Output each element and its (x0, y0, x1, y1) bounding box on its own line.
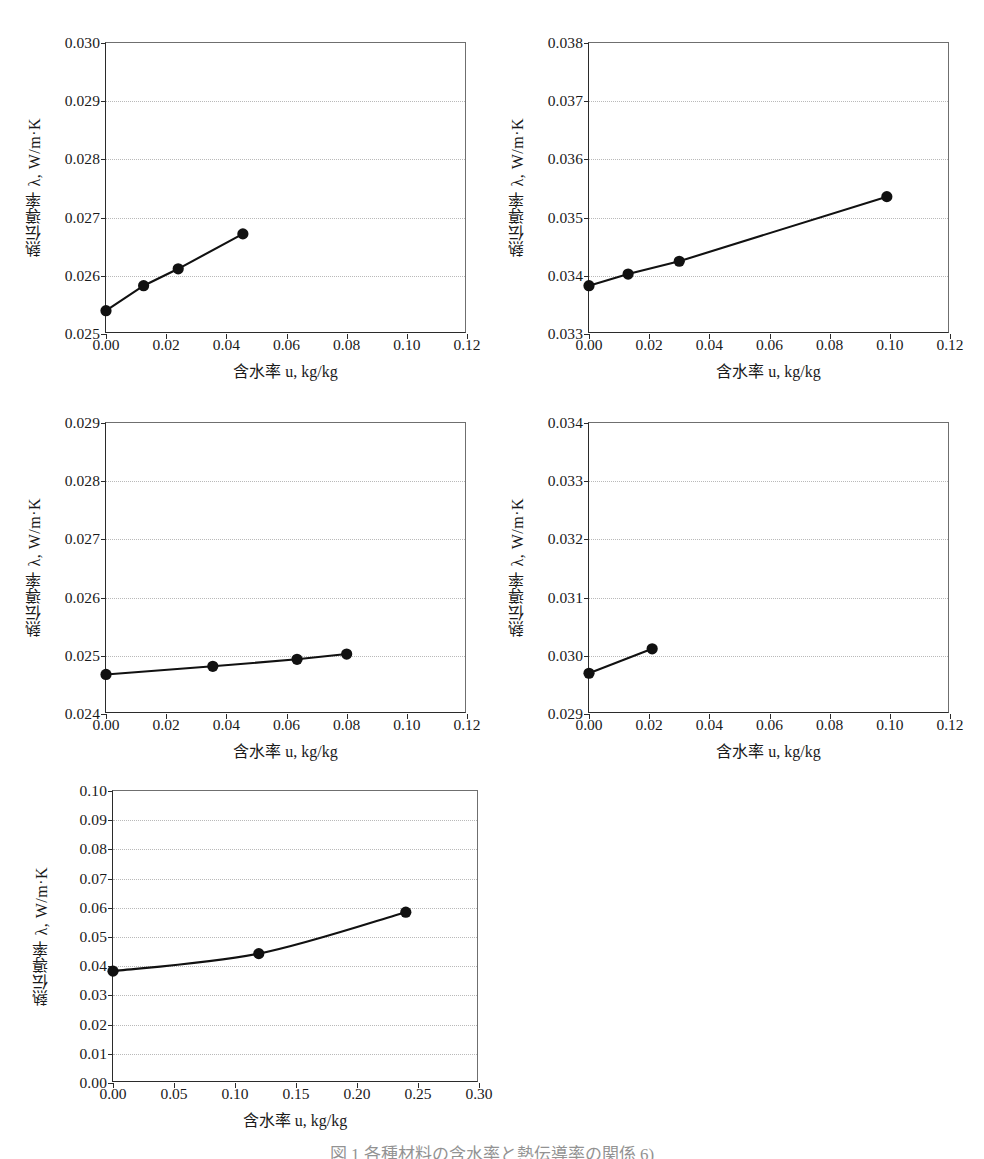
plot-area: 0.0250.0260.0270.0280.0290.0300.000.020.… (105, 42, 466, 333)
x-axis-tick-mark (770, 334, 771, 339)
data-point (138, 280, 149, 291)
x-axis-tick-mark (890, 334, 891, 339)
chart-density: ( ρ = − kg / m3 ) (267, 805, 370, 822)
chart-density: ( ρ = 34 kg / m3 ) (606, 457, 941, 481)
y-axis-tick-label: 0.027 (65, 532, 106, 548)
x-axis-tick-label: 0.04 (696, 717, 723, 733)
chart-density: ( ρ = 24 kg / m3 ) (251, 437, 361, 454)
data-point (207, 661, 218, 672)
y-axis-tick-mark (101, 101, 106, 102)
x-axis-tick-label: 0.06 (273, 337, 300, 353)
y-axis-label: 熱伝導率 λ, W/m·K (23, 72, 47, 303)
y-axis-tick-mark (101, 481, 106, 482)
chart-name: Phenolic foam (150, 437, 243, 454)
x-axis-tick-mark (709, 714, 710, 719)
chart-title: (9) Phenolic foam ( ρ = 24 kg / m3 ) (123, 434, 360, 458)
x-axis-tick-label: 0.08 (816, 337, 843, 353)
x-axis-tick-mark (649, 714, 650, 719)
chart-11: (11) Cellulose fibre ( ρ = − kg / m3 )熱伝… (0, 0, 984, 1159)
y-axis-tick-label: 0.025 (65, 648, 106, 664)
y-axis-tick-mark (101, 218, 106, 219)
x-axis-tick-label: 0.00 (92, 717, 119, 733)
x-axis-tick-label: 0.20 (343, 1086, 370, 1102)
x-axis-tick-mark (166, 334, 167, 339)
x-axis-tick-mark (830, 334, 831, 339)
x-axis-tick-mark (347, 334, 348, 339)
x-axis-tick-mark (407, 334, 408, 339)
x-axis-tick-mark (418, 1083, 419, 1088)
y-axis-tick-label: 0.028 (65, 473, 106, 489)
data-point (583, 668, 594, 679)
x-axis-tick-label: 0.02 (636, 717, 663, 733)
x-axis-tick-mark (166, 714, 167, 719)
x-axis-tick-label: 0.04 (213, 717, 240, 733)
x-axis-tick-mark (479, 1083, 480, 1088)
x-axis-label: 含水率 u, kg/kg (243, 1107, 347, 1131)
chart-name: Cellulose fibre (164, 805, 259, 822)
y-axis-tick-mark (108, 966, 113, 967)
figure-caption: 図 1 各種材料の含水率と熱伝導率の関係 6) (0, 1140, 984, 1159)
chart-index: (11) (130, 805, 156, 822)
data-point (253, 948, 264, 959)
data-point (583, 280, 594, 291)
chart-index: (10) (606, 437, 633, 454)
x-axis-tick-mark (770, 714, 771, 719)
x-axis-tick-mark (113, 1083, 114, 1088)
y-axis-tick-label: 0.035 (548, 210, 589, 226)
y-axis-tick-mark (584, 481, 589, 482)
x-axis-label: 含水率 u, kg/kg (233, 738, 337, 762)
gridline (106, 598, 465, 599)
data-series (589, 43, 950, 334)
gridline (589, 539, 948, 540)
series-line (589, 197, 887, 286)
x-axis-tick-mark (407, 714, 408, 719)
x-axis-tick-mark (106, 334, 107, 339)
gridline (589, 481, 948, 482)
y-axis-tick-label: 0.032 (548, 532, 589, 548)
data-series (113, 791, 479, 1083)
data-point (100, 669, 111, 680)
x-axis-tick-label: 0.10 (393, 337, 420, 353)
plot-area: 0.0290.0300.0310.0320.0330.0340.000.020.… (588, 422, 949, 713)
y-axis-tick-mark (584, 656, 589, 657)
y-axis-tick-label: 0.029 (65, 415, 106, 431)
gridline (589, 101, 948, 102)
y-axis-tick-mark (101, 423, 106, 424)
x-axis-tick-mark (589, 714, 590, 719)
gridline (113, 937, 477, 938)
y-axis-tick-mark (108, 820, 113, 821)
y-axis-tick-label: 0.04 (79, 958, 113, 974)
y-axis-tick-label: 0.028 (65, 152, 106, 168)
x-axis-tick-label: 0.04 (696, 337, 723, 353)
y-axis-tick-label: 0.06 (79, 900, 113, 916)
gridline (106, 276, 465, 277)
gridline (589, 656, 948, 657)
data-point (881, 191, 892, 202)
series-line (106, 234, 243, 311)
y-axis-tick-mark (108, 1025, 113, 1026)
y-axis-tick-mark (584, 159, 589, 160)
data-point (674, 256, 685, 267)
y-axis-tick-label: 0.036 (548, 152, 589, 168)
x-axis-tick-label: 0.10 (393, 717, 420, 733)
chart-8: (8) Rigid polyurethane foamed water( ρ =… (0, 0, 984, 1159)
x-axis-tick-label: 0.06 (756, 337, 783, 353)
x-axis-tick-label: 0.02 (153, 717, 180, 733)
y-axis-tick-label: 0.033 (548, 326, 589, 342)
x-axis-tick-label: 0.06 (273, 717, 300, 733)
y-axis-tick-label: 0.02 (79, 1017, 113, 1033)
x-axis-tick-label: 0.10 (876, 337, 903, 353)
chart-index: (8) (606, 57, 625, 74)
x-axis-tick-mark (890, 714, 891, 719)
data-point (107, 966, 118, 977)
gridline (113, 908, 477, 909)
x-axis-tick-mark (649, 334, 650, 339)
x-axis-tick-mark (287, 334, 288, 339)
chart-name: Rigid polyurethane foamed HCFC141 (150, 57, 395, 74)
data-point (173, 263, 184, 274)
x-axis-tick-label: 0.06 (756, 717, 783, 733)
x-axis-tick-label: 0.05 (160, 1086, 187, 1102)
gridline (106, 539, 465, 540)
data-point (647, 643, 658, 654)
x-axis-tick-label: 0.15 (282, 1086, 309, 1102)
